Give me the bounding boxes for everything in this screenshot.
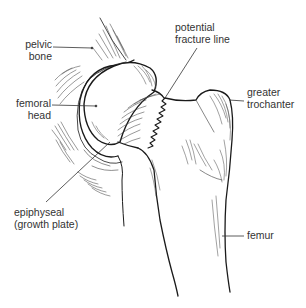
- leader-pelvic-bone: [53, 47, 92, 48]
- leader-fracture-line: [165, 48, 197, 98]
- hip-anatomy-diagram: pelvic bone femoral head potential fract…: [0, 0, 306, 308]
- femoral-neck-bottom: [118, 142, 138, 148]
- label-potential-fracture-line: potential fracture line: [175, 22, 230, 45]
- label-epiphyseal: epiphyseal (growth plate): [14, 207, 78, 230]
- label-femur: femur: [247, 230, 274, 242]
- label-femur-line1: femur: [247, 230, 274, 242]
- label-greater-trochanter: greater trochanter: [247, 87, 294, 110]
- femur-outline-left: [138, 148, 178, 296]
- label-greater-trochanter-line2: trochanter: [247, 99, 294, 111]
- fracture-zigzag: [148, 98, 166, 148]
- label-epiphyseal-line1: epiphyseal: [14, 207, 78, 219]
- leader-greater-trochanter: [229, 100, 244, 101]
- label-femoral-head-line1: femoral: [8, 98, 51, 110]
- label-epiphyseal-line2: (growth plate): [14, 219, 78, 231]
- label-pelvic-bone: pelvic bone: [20, 39, 52, 62]
- label-femoral-head: femoral head: [8, 98, 51, 121]
- label-fracture-line2: fracture line: [175, 34, 230, 46]
- femur-outline-top: [165, 90, 233, 292]
- label-pelvic-bone-line2: bone: [20, 51, 52, 63]
- label-greater-trochanter-line1: greater: [247, 87, 294, 99]
- femoral-neck-top: [152, 90, 164, 98]
- label-pelvic-bone-line1: pelvic: [20, 39, 52, 51]
- label-femoral-head-line2: head: [8, 110, 51, 122]
- label-fracture-line1: potential: [175, 22, 230, 34]
